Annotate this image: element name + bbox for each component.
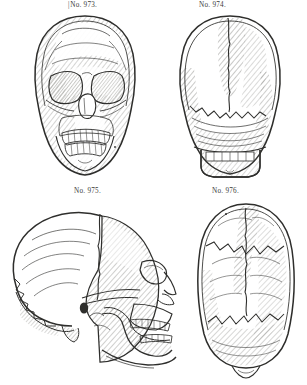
figure-973-anterior-skull (22, 14, 148, 180)
skull-976-nasal-tip-inner (238, 370, 254, 373)
skull-975-temporal-line-2 (24, 241, 90, 256)
skull-975-temporal-line-1 (32, 229, 96, 240)
skull-973-orbit-right (91, 72, 124, 104)
caption-text-976: No. 976. (212, 187, 239, 195)
figure-caption-974: No. 974. (199, 1, 226, 9)
skull-975-temporal-line-3 (22, 254, 84, 270)
caption-text-973: No. 973. (70, 1, 97, 9)
figure-975-lateral-skull (6, 200, 182, 380)
figure-caption-973: |No. 973. (68, 1, 97, 9)
caption-text-974: No. 974. (199, 1, 226, 9)
skull-975-temporal-line-5 (34, 283, 78, 296)
skull-973-orbit-left (49, 72, 83, 104)
caption-text-975: No. 975. (74, 187, 101, 195)
figure-976-superior-skull (188, 200, 304, 380)
skull-974-teeth-row (206, 152, 254, 161)
skull-975-temporal-line-4 (26, 269, 80, 284)
figure-974-posterior-skull (168, 14, 292, 180)
skull-975-nasal-bones (164, 272, 176, 295)
skull-976-frontal-foramen (225, 213, 227, 215)
skull-973-mental-foramen (114, 146, 116, 148)
figure-caption-976: No. 976. (212, 187, 239, 195)
skull-975-auditory-meatus (80, 302, 88, 313)
figure-caption-975: No. 975. (74, 187, 101, 195)
illustration-plate: |No. 973. No. 974. No. 975. No. 976. (0, 0, 307, 385)
skull-975-nasal-aperture (158, 294, 174, 305)
